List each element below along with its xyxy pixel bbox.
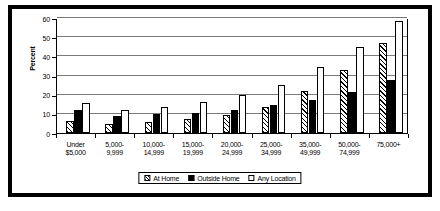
legend-label: Outside Home	[197, 175, 239, 182]
x-tick-mark	[252, 134, 253, 138]
bar-at-home	[262, 107, 269, 133]
x-tick-mark	[134, 134, 135, 138]
legend-label: At Home	[153, 175, 179, 182]
y-tick-label: 30	[24, 73, 50, 80]
legend-label: Any Location	[258, 175, 296, 182]
figure-frame: Percent 0102030405060 Under $5,0005,000-…	[8, 5, 432, 197]
y-tick-label: 20	[24, 92, 50, 99]
bar-any-location	[82, 103, 89, 133]
y-tick-label: 40	[24, 54, 50, 61]
x-tick-mark	[291, 134, 292, 138]
bars-layer	[57, 19, 407, 133]
bar-outside-home	[348, 92, 355, 133]
bar-at-home	[105, 124, 112, 133]
y-tick-label: 10	[24, 111, 50, 118]
bar-outside-home	[74, 110, 81, 133]
bar-outside-home	[113, 116, 120, 133]
x-tick-mark	[173, 134, 174, 138]
bar-at-home	[301, 91, 308, 133]
x-tick-mark	[330, 134, 331, 138]
figure-inner: Percent 0102030405060 Under $5,0005,000-…	[12, 9, 428, 193]
bar-any-location	[239, 95, 246, 133]
y-tick-label: 50	[24, 35, 50, 42]
legend-item: At Home	[144, 175, 179, 182]
x-tick-mark	[95, 134, 96, 138]
x-tick-mark	[56, 134, 57, 138]
bar-any-location	[161, 107, 168, 133]
y-tick-label: 60	[24, 16, 50, 23]
bar-at-home	[145, 122, 152, 134]
plot-area	[56, 19, 408, 134]
bar-any-location	[317, 67, 324, 133]
y-tick-label: 0	[24, 131, 50, 138]
bar-outside-home	[192, 113, 199, 134]
bar-any-location	[278, 85, 285, 133]
bar-outside-home	[387, 80, 394, 133]
bar-outside-home	[270, 105, 277, 133]
x-tick-mark	[408, 134, 409, 138]
bar-any-location	[200, 102, 207, 133]
bar-any-location	[121, 110, 128, 133]
x-tick-mark	[369, 134, 370, 138]
x-tick-mark	[212, 134, 213, 138]
legend-swatch-icon	[249, 175, 255, 181]
bar-any-location	[356, 47, 363, 133]
chart-legend: At HomeOutside HomeAny Location	[138, 172, 301, 184]
bar-outside-home	[231, 110, 238, 133]
x-category-label: 75,000+	[363, 141, 414, 149]
bar-at-home	[66, 121, 73, 133]
legend-item: Any Location	[249, 175, 296, 182]
gridline	[57, 17, 407, 18]
bar-outside-home	[309, 100, 316, 133]
bar-at-home	[184, 119, 191, 133]
bar-at-home	[223, 115, 230, 133]
bar-any-location	[395, 21, 402, 133]
legend-swatch-icon	[144, 175, 150, 181]
bar-at-home	[340, 70, 347, 133]
bar-at-home	[379, 43, 386, 133]
legend-swatch-icon	[188, 175, 194, 181]
bar-outside-home	[153, 114, 160, 133]
legend-item: Outside Home	[188, 175, 239, 182]
